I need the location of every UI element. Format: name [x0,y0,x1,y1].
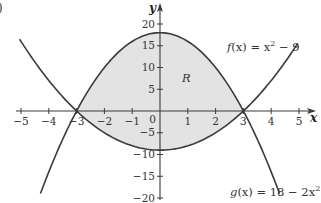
x-tick-label: 5 [296,115,303,127]
y-tick-label: 20 [142,18,155,30]
f-tail: − 9 [275,40,299,54]
x-tick-label: 1 [184,115,191,127]
x-tick-label: 2 [212,115,219,127]
x-axis-label: x [309,111,318,125]
x-tick-label: −1 [124,115,139,127]
y-tick-label: 15 [142,39,155,51]
x-tick-label: −4 [41,115,57,127]
y-axis-label: y [148,1,157,15]
y-tick-label: −5 [140,126,155,138]
y-tick-label: −20 [133,192,155,203]
y-tick-label: 10 [142,61,155,73]
g-function-label: g(x) = 18 − 2x2 [230,184,320,199]
g-argument: (x) = 18 − 2x [237,185,315,199]
region-label-R: R [181,71,191,85]
graph-figure: ) −5−4−3−2−1012345 2015105−5−10−15−20 y … [0,0,321,202]
part-label: ) [0,1,3,15]
x-tick-label: 4 [268,115,275,127]
x-tick-label: 0 [149,113,156,125]
x-tick-label: −2 [97,115,112,127]
g-name: g [230,185,237,199]
f-function-label: f(x) = x2 − 9 [226,39,300,54]
y-tick-label: −15 [133,170,155,182]
f-argument: (x) = x [231,40,270,54]
y-tick-label: 5 [148,83,155,95]
x-tick-label: −5 [13,115,28,127]
g-exponent: 2 [315,184,320,193]
